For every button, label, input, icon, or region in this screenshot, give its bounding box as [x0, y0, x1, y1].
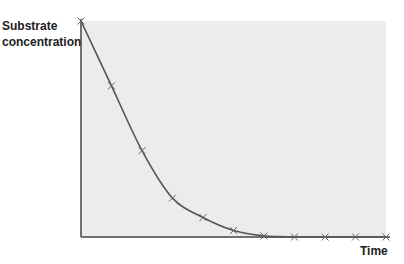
plot-background: [81, 21, 386, 237]
chart-plot: [0, 0, 404, 264]
